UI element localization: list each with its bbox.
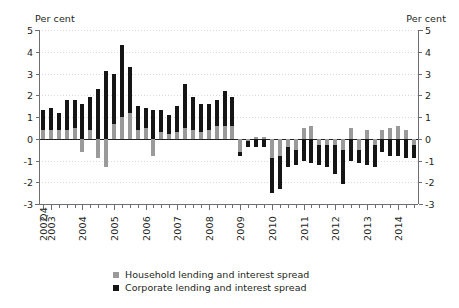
bar-segment-household: [96, 139, 100, 159]
y-axis-tick-label: 2: [425, 90, 431, 101]
bar-segment-corporate: [309, 139, 313, 163]
bar-segment-household: [159, 132, 163, 139]
bar-column: [49, 30, 53, 204]
y-axis-tick-label: -3: [425, 199, 434, 210]
y-axis-tick: [36, 52, 39, 53]
y-axis-tick: [36, 139, 39, 140]
bar-segment-household: [175, 132, 179, 139]
bar-column: [278, 30, 282, 204]
bar-segment-corporate: [73, 100, 77, 128]
bar-segment-household: [49, 130, 53, 139]
y-axis-tick-label: -3: [17, 199, 33, 210]
bar-column: [96, 30, 100, 204]
bar-segment-household: [404, 130, 408, 139]
bar-column: [302, 30, 306, 204]
bar-column: [120, 30, 124, 204]
bar-segment-corporate: [191, 97, 195, 130]
bar-segment-household: [309, 126, 313, 139]
chart-legend: Household lending and interest spread Co…: [113, 268, 309, 294]
y-axis-tick: [36, 117, 39, 118]
bar-segment-corporate: [325, 145, 329, 167]
x-axis-line: [39, 204, 418, 205]
bar-segment-corporate: [112, 74, 116, 124]
bar-segment-corporate: [167, 115, 171, 135]
y-axis-tick-label: 5: [17, 25, 33, 36]
y-axis-unit-label-left: Per cent: [35, 13, 75, 24]
bar-column: [412, 30, 416, 204]
bar-segment-corporate: [230, 97, 234, 125]
bar-segment-corporate: [262, 139, 266, 148]
bar-column: [144, 30, 148, 204]
bar-segment-household: [199, 132, 203, 139]
plot-area: [39, 30, 418, 204]
y-axis-tick: [36, 161, 39, 162]
y-axis-tick: [419, 139, 422, 140]
bar-segment-household: [215, 126, 219, 139]
bar-segment-household: [191, 130, 195, 139]
x-axis-tick-label: 2008: [204, 216, 215, 241]
bar-segment-corporate: [396, 139, 400, 156]
bar-segment-corporate: [215, 100, 219, 126]
bar-column: [41, 30, 45, 204]
bar-segment-household: [88, 130, 92, 139]
x-axis-tick-label: 2006: [141, 216, 152, 241]
bar-segment-corporate: [380, 139, 384, 152]
y-axis-tick: [419, 117, 422, 118]
bar-column: [333, 30, 337, 204]
bar-segment-household: [104, 139, 108, 167]
x-axis-tick-label: 2004: [77, 216, 88, 241]
bar-segment-corporate: [365, 139, 369, 165]
axis-end-cap: [419, 30, 423, 31]
bar-segment-corporate: [373, 145, 377, 167]
y-axis-tick-label: 2: [17, 90, 33, 101]
bar-segment-corporate: [120, 45, 124, 117]
x-axis-tick-label: 2012: [330, 216, 341, 241]
bar-segment-household: [128, 113, 132, 139]
bar-column: [65, 30, 69, 204]
bar-column: [136, 30, 140, 204]
bar-segment-corporate: [238, 152, 242, 156]
bar-column: [325, 30, 329, 204]
bar-column: [262, 30, 266, 204]
y-axis-tick-label: -2: [17, 177, 33, 188]
y-axis-tick: [419, 52, 422, 53]
bar-segment-corporate: [49, 108, 53, 130]
y-axis-left: [39, 30, 40, 204]
bar-segment-corporate: [144, 108, 148, 128]
bar-column: [388, 30, 392, 204]
bar-segment-household: [286, 139, 290, 148]
bar-column: [373, 30, 377, 204]
bar-column: [112, 30, 116, 204]
x-axis-first-quarter-label: Q4: [38, 207, 49, 221]
bar-segment-household: [65, 130, 69, 139]
bar-column: [151, 30, 155, 204]
x-axis-tick-label: 2013: [362, 216, 373, 241]
y-axis-tick-label: 1: [425, 112, 431, 123]
bar-segment-household: [349, 128, 353, 139]
bar-segment-corporate: [223, 91, 227, 126]
bar-column: [286, 30, 290, 204]
x-axis-tick-label: 2005: [109, 216, 120, 241]
bar-segment-corporate: [159, 110, 163, 132]
bar-segment-corporate: [357, 150, 361, 163]
bar-segment-corporate: [388, 139, 392, 156]
bar-segment-corporate: [246, 141, 250, 148]
axis-end-cap: [419, 204, 423, 205]
bar-segment-household: [144, 128, 148, 139]
bar-segment-corporate: [175, 106, 179, 132]
bar-segment-corporate: [349, 139, 353, 161]
bar-segment-household: [151, 139, 155, 156]
bar-column: [199, 30, 203, 204]
bar-segment-corporate: [80, 104, 84, 139]
y-axis-tick-label: 0: [425, 133, 431, 144]
bar-segment-household: [302, 128, 306, 139]
bar-segment-corporate: [270, 158, 274, 193]
y-axis-tick: [36, 182, 39, 183]
bar-column: [349, 30, 353, 204]
bar-segment-corporate: [278, 156, 282, 189]
y-axis-unit-label-right: Per cent: [406, 13, 446, 24]
bar-segment-household: [223, 126, 227, 139]
bar-segment-corporate: [183, 84, 187, 128]
y-axis-tick-label: 0: [17, 133, 33, 144]
bar-column: [207, 30, 211, 204]
